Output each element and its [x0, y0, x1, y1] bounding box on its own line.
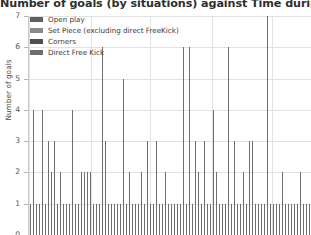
bar: [81, 172, 83, 235]
bar: [222, 204, 224, 235]
bar: [276, 204, 278, 235]
bar: [111, 204, 113, 235]
y-tick-label-6: 6: [6, 43, 20, 51]
bar: [192, 204, 194, 235]
y-tick-mark-7: [24, 16, 28, 17]
bar: [84, 172, 86, 235]
bar: [78, 204, 80, 235]
bar: [171, 204, 173, 235]
bar: [114, 204, 116, 235]
bar: [198, 172, 200, 235]
bar: [57, 204, 59, 235]
bar: [291, 204, 293, 235]
bar: [228, 47, 230, 235]
bar: [90, 172, 92, 235]
bar: [234, 141, 236, 235]
chart-container: Number of goals (by situations) against …: [0, 0, 311, 235]
bar: [87, 172, 89, 235]
bar: [249, 141, 251, 235]
legend-label: Direct Free Kick: [48, 48, 104, 57]
bar: [99, 204, 101, 235]
y-tick-mark-3: [24, 141, 28, 142]
bar: [36, 204, 38, 235]
bar: [294, 204, 296, 235]
bar: [75, 204, 77, 235]
bar: [96, 204, 98, 235]
bar: [246, 204, 248, 235]
chart-legend: Open playSet Piece (excluding direct Fre…: [30, 14, 230, 59]
chart-title: Number of goals (by situations) against …: [0, 0, 311, 11]
legend-item-2[interactable]: Corners: [30, 36, 230, 46]
bar: [177, 204, 179, 235]
y-tick-label-7: 7: [6, 12, 20, 20]
bar: [66, 204, 68, 235]
y-axis-label: Number of goals: [4, 44, 16, 136]
bar: [162, 204, 164, 235]
bar: [204, 141, 206, 235]
bar: [159, 204, 161, 235]
legend-swatch-icon: [30, 50, 43, 55]
bar: [303, 204, 305, 235]
legend-swatch-icon: [30, 39, 43, 44]
legend-item-3[interactable]: Direct Free Kick: [30, 48, 230, 58]
bar: [300, 172, 302, 235]
bar: [261, 204, 263, 235]
bar: [243, 172, 245, 235]
bar: [156, 141, 158, 235]
y-tick-label-4: 4: [6, 106, 20, 114]
bar: [165, 172, 167, 235]
bar: [309, 204, 311, 235]
legend-swatch-icon: [30, 17, 43, 22]
bar: [153, 204, 155, 235]
bar: [306, 204, 308, 235]
bar: [168, 204, 170, 235]
bar: [186, 204, 188, 235]
y-tick-label-1: 1: [6, 200, 20, 208]
bar: [219, 204, 221, 235]
y-tick-mark-1: [24, 204, 28, 205]
bar: [288, 204, 290, 235]
bar: [147, 141, 149, 235]
bar: [39, 204, 41, 235]
gridline-h-5: [29, 79, 311, 80]
bar: [30, 204, 32, 235]
legend-swatch-icon: [30, 28, 43, 33]
bar: [123, 79, 125, 235]
bar: [279, 204, 281, 235]
legend-label: Open play: [48, 15, 85, 24]
legend-item-1[interactable]: Set Piece (excluding direct FreeKick): [30, 25, 230, 35]
bar: [150, 204, 152, 235]
bar: [126, 204, 128, 235]
bar: [48, 141, 50, 235]
bar: [72, 110, 74, 235]
bar: [231, 204, 233, 235]
bar: [174, 204, 176, 235]
y-tick-label-5: 5: [6, 75, 20, 83]
legend-label: Set Piece (excluding direct FreeKick): [48, 26, 179, 35]
bar: [237, 204, 239, 235]
legend-label: Corners: [48, 37, 76, 46]
bar: [69, 204, 71, 235]
y-tick-mark-2: [24, 172, 28, 173]
bar: [129, 172, 131, 235]
bar: [132, 204, 134, 235]
bar: [225, 204, 227, 235]
y-tick-mark-6: [24, 47, 28, 48]
y-tick-label-3: 3: [6, 137, 20, 145]
bar: [216, 172, 218, 235]
bar: [144, 204, 146, 235]
bar: [138, 204, 140, 235]
bar: [141, 172, 143, 235]
bar: [102, 47, 104, 235]
bar: [45, 204, 47, 235]
bar: [135, 204, 137, 235]
gridline-v-4: [272, 16, 273, 235]
bar: [252, 141, 254, 235]
bar: [189, 47, 191, 235]
bar: [183, 47, 185, 235]
bar: [108, 204, 110, 235]
bar: [213, 110, 215, 235]
bar: [195, 141, 197, 235]
bar: [285, 204, 287, 235]
legend-item-0[interactable]: Open play: [30, 14, 230, 24]
